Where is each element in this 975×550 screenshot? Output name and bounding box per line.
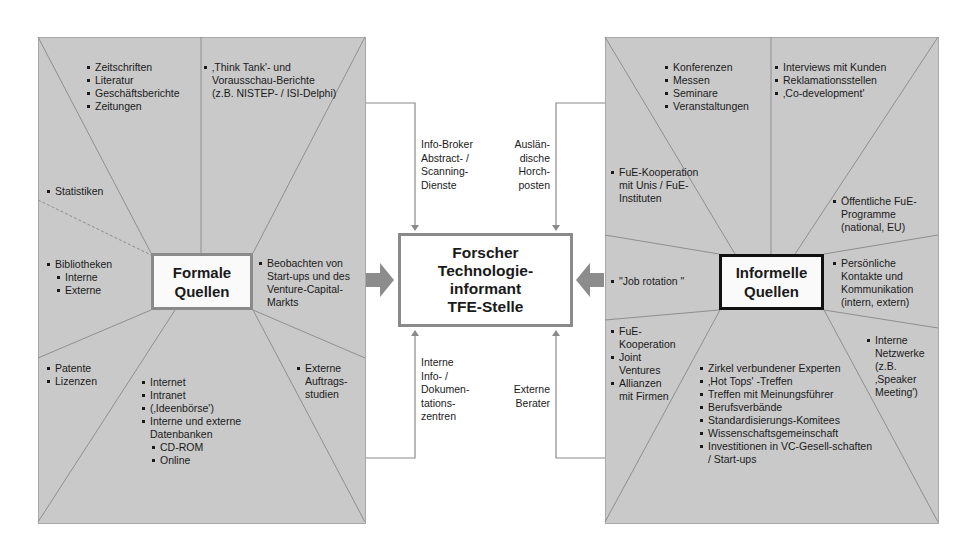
- connector-label-internal-doc-centers: Interne Info- / Dokumen- tations- zentre…: [421, 356, 469, 424]
- informal-sources-hub: InformelleQuellen: [719, 254, 824, 310]
- informal-bottom-list: Zirkel verbundener Experten ‚Hot Tops' -…: [699, 362, 874, 466]
- connector-label-foreign-posts: Auslän- dische Horch- posten: [506, 138, 550, 192]
- informal-bottom-left-list: FuE-Kooperation Joint Ventures Allianzen…: [610, 325, 670, 403]
- informal-personal-contacts: Persönliche Kontakte und Kommunikation (…: [832, 257, 936, 309]
- formal-patents: Patente Lizenzen: [46, 362, 97, 388]
- formal-statistics: Statistiken: [46, 185, 103, 198]
- informal-research-cooperation: FuE-Kooperation mit Unis / FuE-Institute…: [610, 166, 705, 205]
- formal-top-right-list: ‚Think Tank'- und Vorausschau-Berichte (…: [203, 61, 338, 100]
- researcher-technology-informant-hub: Forscher Technologie- informant TFE-Stel…: [398, 233, 573, 327]
- connector-label-info-broker: Info-Broker Abstract- / Scanning- Dienst…: [421, 138, 473, 192]
- formal-top-left-list: Zeitschriften Literatur Geschäftsbericht…: [86, 61, 180, 113]
- formal-libraries: Bibliotheken Interne Externe: [46, 258, 112, 297]
- formal-sources-hub: FormaleQuellen: [151, 253, 253, 310]
- formal-external-studies: Externe Auftrags-studien: [296, 362, 354, 401]
- informal-public-programs: Öffentliche FuE-Programme (national, EU): [832, 195, 932, 234]
- informal-internal-networks: Interne Netzwerke (z.B. ‚Speaker Meeting…: [866, 334, 936, 399]
- formal-bottom-list: Internet Intranet (‚Ideenbörse') Interne…: [141, 376, 266, 467]
- connector-label-external-consultants: Externe Berater: [500, 383, 550, 410]
- informal-top-right-list: Interviews mit Kunden Reklamationsstelle…: [774, 61, 886, 100]
- arrow-left-icon: [576, 263, 604, 297]
- formal-startup-watch: Beobachten von Start-ups und des Venture…: [258, 257, 360, 309]
- arrow-right-icon: [366, 263, 394, 297]
- informal-job-rotation: "Job rotation ": [610, 275, 684, 288]
- informal-top-left-list: Konferenzen Messen Seminare Veranstaltun…: [664, 61, 749, 113]
